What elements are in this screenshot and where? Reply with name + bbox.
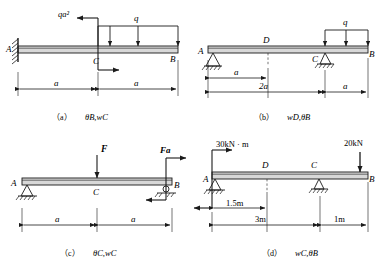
panel-c-dim-label-2: a <box>131 214 136 224</box>
panel-b-dim-label-1: a <box>234 67 239 77</box>
panel-c-caption-prefix: （c） <box>60 249 80 258</box>
panel-b-caption-symbols: wD,θB <box>287 112 310 122</box>
panel-d-support-pin-C <box>309 179 328 193</box>
panel-a-caption-symbols: θB,wC <box>85 112 108 122</box>
panel-d-dim-label-3: 1m <box>334 214 345 224</box>
panel-b-dimensions <box>208 58 368 98</box>
panel-a: A qa² C q B a a （a） θB,wC <box>5 9 178 122</box>
panel-d-dim-label-1: 1.5m <box>226 198 244 208</box>
beam-diagrams-svg: A qa² C q B a a （a） θB,wC <box>0 0 382 273</box>
panel-b-dim-label-3: a <box>343 81 348 91</box>
panel-b-caption-prefix: （b） <box>254 113 274 122</box>
panel-b-beam <box>208 46 368 53</box>
panel-d-dim-label-2: 3m <box>255 214 266 224</box>
panel-b-label-A: A <box>197 46 204 56</box>
panel-d-caption-symbols: wC,θB <box>295 248 318 258</box>
panel-a-distributed-load-q <box>98 26 178 46</box>
panel-a-caption-prefix: （a） <box>52 113 72 122</box>
panel-a-label-B: B <box>170 54 176 64</box>
panel-d: 30kN · m A D C <box>194 138 375 258</box>
panel-d-label-D: D <box>261 160 269 170</box>
panel-d-caption-prefix: （d） <box>262 249 282 258</box>
panel-d-load-label-force: 20kN <box>344 138 363 148</box>
figure-sheet: A qa² C q B a a （a） θB,wC <box>0 0 382 273</box>
panel-a-load-label-q: q <box>134 13 139 23</box>
panel-b-load-label-q: q <box>343 17 348 27</box>
panel-a-support-fixed-A <box>12 38 18 64</box>
panel-c-load-label-F: F <box>100 144 108 154</box>
panel-c-caption-symbols: θC,wC <box>93 248 117 258</box>
panel-c-label-A: A <box>10 178 17 188</box>
panel-b-dim-label-2: 2a <box>259 81 269 91</box>
panel-c: A F C Fa B <box>10 144 186 258</box>
panel-a-load-label-qa2: qa² <box>58 9 70 19</box>
panel-b-support-pin-A <box>202 53 222 70</box>
panel-a-label-A: A <box>5 44 12 54</box>
panel-d-label-A: A <box>202 174 209 184</box>
panel-a-dim-label-2: a <box>134 78 139 88</box>
panel-b: A D C q B <box>197 17 375 122</box>
panel-d-load-label-moment: 30kN · m <box>216 139 249 149</box>
panel-c-label-C: C <box>93 187 100 197</box>
panel-b-distributed-load-q <box>325 30 368 46</box>
panel-b-label-B: B <box>369 49 375 59</box>
panel-c-label-B: B <box>174 180 180 190</box>
panel-a-label-C: C <box>93 56 100 66</box>
panel-b-label-C: C <box>312 54 319 64</box>
panel-c-dimensions <box>22 208 172 232</box>
panel-c-load-label-Fa: Fa <box>159 145 171 155</box>
panel-a-dim-label-1: a <box>54 78 59 88</box>
panel-c-beam <box>22 178 172 185</box>
panel-d-label-C: C <box>311 160 318 170</box>
panel-b-label-D: D <box>262 35 270 45</box>
panel-d-label-B: B <box>369 174 375 184</box>
panel-c-support-pin-A <box>16 185 37 200</box>
panel-d-beam <box>212 172 368 179</box>
panel-c-dim-label-1: a <box>55 214 60 224</box>
